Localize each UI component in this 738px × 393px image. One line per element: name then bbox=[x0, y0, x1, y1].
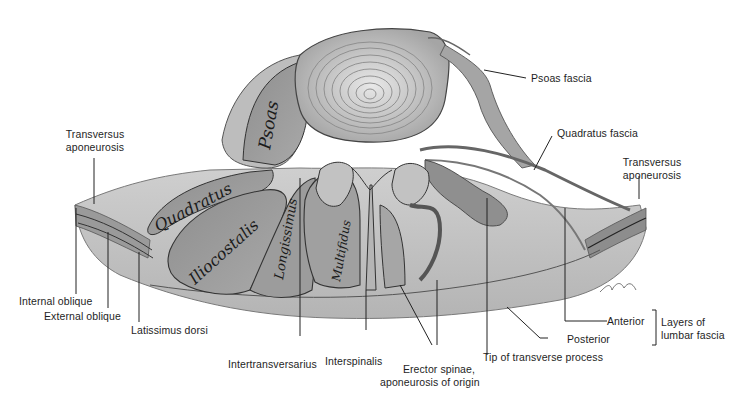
label-quadratus-fascia: Quadratus fascia bbox=[557, 127, 638, 140]
label-transversus-aponeurosis-left: Transversus aponeurosis bbox=[50, 128, 140, 154]
label-transversus-aponeurosis-left-line1: Transversus bbox=[50, 128, 140, 141]
label-intertransversarius: Intertransversarius bbox=[228, 358, 317, 371]
label-erector-spinae-line2: aponeurosis of origin bbox=[380, 376, 475, 389]
label-transversus-aponeurosis-left-line2: aponeurosis bbox=[50, 141, 140, 154]
artist-signature bbox=[600, 284, 636, 292]
label-external-oblique: External oblique bbox=[44, 310, 121, 323]
label-erector-spinae: Erector spinae, aponeurosis of origin bbox=[380, 363, 475, 389]
label-layers-line2: lumbar fascia bbox=[661, 329, 725, 342]
label-interspinalis: Interspinalis bbox=[325, 355, 382, 368]
label-tip-of-transverse-process: Tip of transverse process bbox=[483, 351, 603, 364]
label-internal-oblique: Internal oblique bbox=[19, 295, 92, 308]
label-layers-of-lumbar-fascia: Layers of lumbar fascia bbox=[661, 316, 725, 342]
label-psoas-fascia: Psoas fascia bbox=[531, 72, 592, 85]
label-transversus-aponeurosis-right-line1: Transversus bbox=[612, 156, 692, 169]
label-transversus-aponeurosis-right: Transversus aponeurosis bbox=[612, 156, 692, 182]
label-layers-line1: Layers of bbox=[661, 316, 725, 329]
intervertebral-disc bbox=[295, 29, 470, 142]
label-posterior: Posterior bbox=[567, 333, 610, 346]
label-anterior: Anterior bbox=[607, 315, 645, 328]
label-transversus-aponeurosis-right-line2: aponeurosis bbox=[612, 169, 692, 182]
label-latissimus-dorsi: Latissimus dorsi bbox=[131, 324, 208, 337]
anatomical-illustration: Psoas Quadratus Iliocostalis bbox=[0, 0, 738, 393]
label-erector-spinae-line1: Erector spinae, bbox=[380, 363, 475, 376]
